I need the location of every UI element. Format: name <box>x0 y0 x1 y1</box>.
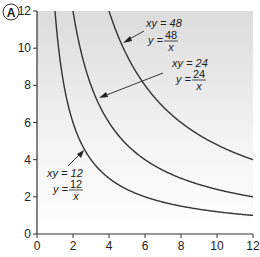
x-tick-label: 4 <box>106 239 113 253</box>
svg-text:12: 12 <box>70 178 82 190</box>
plot-background <box>37 11 253 234</box>
svg-text:24: 24 <box>193 68 205 80</box>
x-tick-label: 12 <box>246 239 260 253</box>
svg-text:x: x <box>195 80 202 92</box>
y-tick-label: 4 <box>24 153 31 167</box>
y-tick-label: 0 <box>24 227 31 241</box>
x-tick-label: 2 <box>70 239 77 253</box>
hyperbola-chart: 024681012024681012 A xy = 48 y = 48 x xy… <box>0 0 260 257</box>
svg-text:y =: y = <box>175 73 192 85</box>
y-tick-label: 6 <box>24 116 31 130</box>
svg-text:y =: y = <box>147 34 164 46</box>
svg-text:x: x <box>72 190 79 202</box>
x-tick-label: 6 <box>142 239 149 253</box>
x-tick-label: 0 <box>34 239 41 253</box>
x-tick-label: 8 <box>178 239 185 253</box>
svg-text:y =: y = <box>52 183 69 195</box>
y-tick-label: 10 <box>18 41 32 55</box>
svg-text:48: 48 <box>165 29 177 41</box>
svg-text:x: x <box>167 41 174 53</box>
svg-text:xy = 48: xy = 48 <box>145 17 183 29</box>
x-tick-label: 10 <box>210 239 224 253</box>
y-tick-label: 8 <box>24 78 31 92</box>
y-tick-label: 12 <box>18 4 32 18</box>
panel-label-badge: A <box>3 4 19 20</box>
panel-label: A <box>7 6 16 20</box>
y-tick-label: 2 <box>24 190 31 204</box>
